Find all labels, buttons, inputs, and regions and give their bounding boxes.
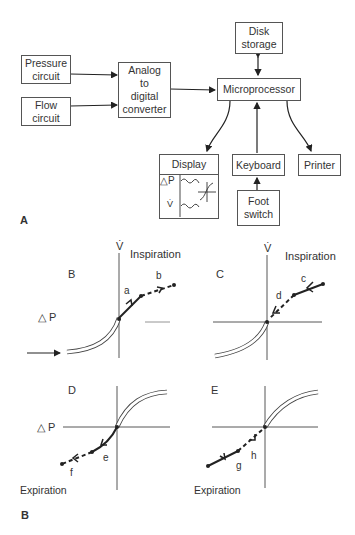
part-a-label: A — [20, 214, 28, 226]
arrow-flow-adc — [70, 105, 117, 106]
segment-b-label: b — [156, 270, 162, 281]
panel-b-label: B — [68, 268, 75, 280]
panel-e-region-label: Expiration — [194, 484, 241, 496]
segment-d-label: d — [276, 290, 282, 301]
segment-f-label: f — [70, 467, 73, 478]
panel-d-region-label: Expiration — [20, 484, 67, 496]
display-block: Display — [159, 154, 219, 175]
disk-storage-block: Disk storage — [235, 22, 283, 54]
panel-b-y-axis-label: V̇ — [116, 240, 123, 252]
segment-c-label: c — [301, 273, 306, 284]
plot-c — [213, 255, 323, 360]
panel-b-region-label: Inspiration — [130, 248, 181, 260]
keyboard-block: Keyboard — [232, 154, 285, 176]
adc-block: Analog to digital converter — [118, 62, 171, 118]
segment-h-label: h — [251, 450, 257, 461]
foot-switch-block: Foot switch — [237, 190, 280, 226]
segment-a-label: a — [124, 285, 130, 296]
display-flow-symbol: V̇ — [167, 199, 173, 209]
panel-c-y-axis-label: V̇ — [264, 242, 271, 254]
display-pressure-symbol: △P — [160, 175, 175, 186]
plot-b — [27, 253, 174, 358]
plot-e — [208, 386, 318, 488]
segment-g-label: g — [236, 460, 242, 471]
panel-b-x-axis-label: △ P — [38, 311, 56, 324]
microprocessor-block: Microprocessor — [217, 78, 301, 101]
arrow-micro-printer — [287, 101, 311, 151]
plot-d — [62, 386, 170, 490]
panel-d-x-axis-label: △ P — [37, 421, 55, 434]
flow-circuit-block: Flow circuit — [21, 97, 71, 126]
panel-c-region-label: Inspiration — [285, 250, 336, 262]
printer-block: Printer — [298, 154, 341, 176]
arrow-adc-micro — [170, 89, 215, 90]
arrow-micro-display — [207, 101, 230, 151]
panel-e-label: E — [211, 384, 218, 396]
panel-d-label: D — [68, 384, 76, 396]
pressure-circuit-block: Pressure circuit — [21, 55, 71, 84]
segment-e-label: e — [103, 452, 109, 463]
arrow-pressure-adc — [70, 74, 117, 75]
part-b-label: B — [21, 509, 29, 521]
panel-c-label: C — [216, 268, 224, 280]
